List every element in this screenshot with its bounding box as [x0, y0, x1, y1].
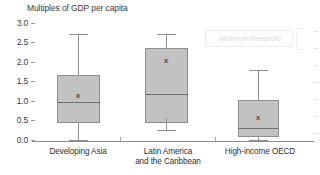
adjacent-panel-fragment	[296, 28, 304, 50]
edge-tick-1	[314, 31, 319, 32]
y-tick-dash-3-0	[31, 23, 35, 24]
x-axis-line	[32, 141, 314, 142]
minimum-threshold-legend-label: Minimum threshold	[210, 34, 290, 43]
x-axis-separator-1	[120, 137, 121, 141]
x-tick-label-high-income-oecd: High-income OECD	[212, 147, 308, 158]
edge-tick-3	[314, 65, 319, 66]
y-tick-label-2-0: 2.0	[4, 57, 28, 67]
box1-mean-marker: x	[76, 92, 80, 100]
box3-upper-cap	[249, 70, 268, 71]
box-plot-chart: Multiples of GDP per capita 3.0 2.5 2.0 …	[0, 0, 320, 175]
y-tick-dash-0-5	[31, 120, 35, 121]
box2-upper-cap	[157, 34, 176, 35]
box1-upper-cap	[69, 34, 88, 35]
y-tick-label-2-5: 2.5	[4, 37, 28, 47]
box1-lower-whisker	[78, 123, 79, 141]
y-tick-dash-1-5	[31, 81, 35, 82]
y-tick-label-1-0: 1.0	[4, 96, 28, 106]
box1-upper-whisker	[78, 34, 79, 76]
y-tick-label-0-5: 0.5	[4, 115, 28, 125]
box2-lower-cap	[157, 130, 176, 131]
y-tick-label-3-0: 3.0	[4, 18, 28, 28]
x-axis-separator-2	[215, 137, 216, 141]
edge-tick-4	[314, 82, 319, 83]
edge-tick-6	[314, 116, 319, 117]
y-tick-label-0-0: 0.0	[4, 135, 28, 145]
y-tick-dash-2-0	[31, 62, 35, 63]
box3-upper-whisker	[258, 70, 259, 101]
edge-tick-2	[314, 48, 319, 49]
x-tick-label-latin-america-line2: and the Caribbean	[122, 157, 214, 168]
y-tick-label-1-5: 1.5	[4, 76, 28, 86]
x-tick-label-developing-asia: Developing Asia	[30, 147, 126, 158]
y-tick-dash-2-5	[31, 42, 35, 43]
edge-tick-5	[314, 99, 319, 100]
x-tick-label-latin-america-line1: Latin America	[122, 147, 214, 158]
y-axis-title: Multiples of GDP per capita	[27, 3, 128, 13]
y-tick-dash-1-0	[31, 101, 35, 102]
box3-median	[238, 128, 279, 129]
box1-median	[57, 102, 100, 103]
edge-tick-7	[314, 133, 319, 134]
box3-mean-marker: x	[256, 114, 260, 122]
box2-median	[145, 94, 188, 95]
box2-mean-marker: x	[164, 57, 168, 65]
